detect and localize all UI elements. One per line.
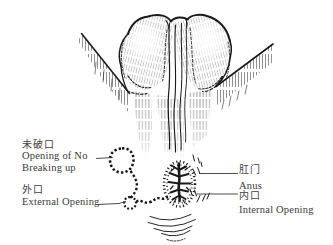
label-internal-opening-en: Internal Opening bbox=[239, 205, 314, 216]
label-unruptured-opening-en-line1: Opening of No bbox=[22, 151, 88, 162]
label-external-opening-en: External Opening bbox=[22, 197, 100, 208]
leader-line-external-opening bbox=[97, 202, 126, 205]
anus-drawing bbox=[164, 155, 210, 207]
unruptured-opening-circle bbox=[110, 148, 134, 172]
label-anus-zh: 肛门 bbox=[239, 165, 261, 175]
fistula-tract bbox=[110, 148, 168, 208]
perineal-fold-arcs bbox=[148, 215, 196, 242]
fistula-tract-descending bbox=[131, 171, 137, 198]
label-internal-opening-zh: 内口 bbox=[239, 191, 261, 201]
figure-canvas: 未破口 Opening of No Breaking up 外口 Externa… bbox=[0, 0, 333, 245]
label-unruptured-opening-zh: 未破口 bbox=[22, 140, 55, 150]
perineum-hatching bbox=[134, 90, 213, 160]
external-opening-circle bbox=[124, 197, 136, 209]
label-unruptured-opening-en-line2: Breaking up bbox=[22, 163, 76, 174]
label-external-opening-zh: 外口 bbox=[22, 185, 44, 195]
fistula-tract-to-anus bbox=[137, 197, 169, 203]
leader-line-unruptured-opening bbox=[97, 158, 113, 159]
